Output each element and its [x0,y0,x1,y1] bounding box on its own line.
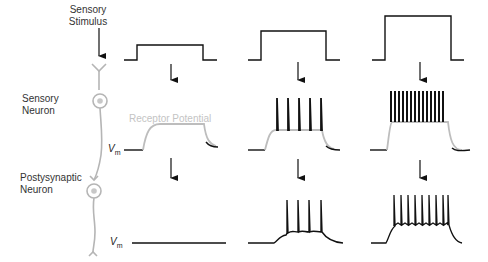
receptor-potential-trace [143,124,216,150]
panel-weak-stimulus [124,45,226,243]
panel-strong-stimulus [370,16,470,243]
stimulus-trace [124,45,217,60]
sensory-spikes [391,91,443,122]
stimulus-trace [248,31,340,60]
panel-medium-stimulus [248,31,343,243]
postsynaptic-trace [248,200,343,243]
postsynaptic-trace [371,195,462,243]
diagram-canvas [0,0,488,262]
sensory-spikes [277,98,322,131]
stimulus-trace [372,16,464,60]
neuron-icon [87,28,107,256]
